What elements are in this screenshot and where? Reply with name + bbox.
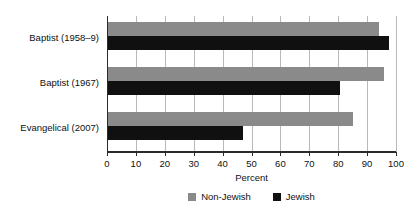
bar-chart: Baptist (1958–9) Baptist (1967) Evangeli…	[0, 0, 417, 215]
legend-item-jewish: Jewish	[273, 191, 315, 202]
tick-label-30: 30	[179, 158, 209, 169]
category-label-baptist-1958-9: Baptist (1958–9)	[0, 33, 99, 43]
bar-non-jewish-baptist-1967	[107, 67, 384, 81]
tick-mark-0	[107, 152, 108, 156]
legend: Non-Jewish Jewish	[107, 191, 396, 202]
bar-non-jewish-evangelical-2007	[107, 112, 353, 126]
tick-mark-40	[223, 152, 224, 156]
legend-item-non-jewish: Non-Jewish	[188, 191, 251, 202]
legend-label-jewish: Jewish	[286, 191, 315, 202]
tick-mark-30	[194, 152, 195, 156]
tick-mark-90	[367, 152, 368, 156]
legend-swatch-jewish	[273, 193, 281, 201]
bar-non-jewish-baptist-1958-9	[107, 22, 379, 36]
tick-mark-50	[252, 152, 253, 156]
tick-label-60: 60	[265, 158, 295, 169]
tick-label-70: 70	[294, 158, 324, 169]
tick-label-0: 0	[92, 158, 122, 169]
tick-mark-60	[280, 152, 281, 156]
bar-jewish-baptist-1958-9	[107, 36, 389, 50]
category-label-baptist-1967: Baptist (1967)	[0, 78, 99, 88]
bar-jewish-evangelical-2007	[107, 126, 243, 140]
plot-area: 0 10 20 30 40 50 60 70 80 90 100	[107, 16, 396, 152]
tick-label-40: 40	[208, 158, 238, 169]
tick-label-50: 50	[237, 158, 267, 169]
tick-label-80: 80	[323, 158, 353, 169]
tick-mark-70	[309, 152, 310, 156]
legend-swatch-non-jewish	[188, 193, 196, 201]
tick-mark-10	[136, 152, 137, 156]
category-axis-labels: Baptist (1958–9) Baptist (1967) Evangeli…	[0, 16, 103, 152]
x-axis-title: Percent	[107, 172, 396, 183]
category-label-evangelical-2007: Evangelical (2007)	[0, 123, 99, 133]
tick-mark-80	[338, 152, 339, 156]
tick-label-10: 10	[121, 158, 151, 169]
tick-mark-100	[396, 152, 397, 156]
tick-label-20: 20	[150, 158, 180, 169]
legend-label-non-jewish: Non-Jewish	[201, 191, 251, 202]
tick-label-90: 90	[352, 158, 382, 169]
bar-jewish-baptist-1967	[107, 81, 340, 95]
y-axis-line	[107, 16, 108, 152]
tick-mark-20	[165, 152, 166, 156]
gridline-100	[396, 16, 397, 152]
tick-label-100: 100	[381, 158, 411, 169]
